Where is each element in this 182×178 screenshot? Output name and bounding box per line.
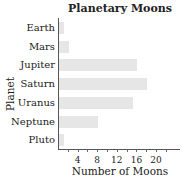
tick-mark — [166, 149, 167, 152]
bar — [59, 116, 98, 128]
tick-mark — [107, 149, 108, 152]
tick-label: 12 — [107, 155, 127, 165]
bar-row: Neptune — [0, 112, 182, 131]
bar-row: Pluto — [0, 130, 182, 149]
bar — [59, 22, 64, 34]
bar — [59, 97, 133, 109]
tick-label: 4 — [68, 155, 88, 165]
tick-mark — [127, 149, 128, 152]
bar — [59, 78, 147, 90]
tick-mark — [136, 149, 137, 152]
category-label: Uranus — [0, 93, 55, 112]
category-label: Saturn — [0, 74, 55, 93]
category-label: Earth — [0, 18, 55, 37]
tick-label: 16 — [126, 155, 146, 165]
bar-row: Earth — [0, 18, 182, 37]
x-axis-label: Number of Moons — [58, 165, 182, 177]
tick-mark — [97, 149, 98, 152]
bar-row: Uranus — [0, 93, 182, 112]
tick-mark — [87, 149, 88, 152]
bar-row: Saturn — [0, 74, 182, 93]
bar — [59, 134, 64, 146]
bar — [59, 41, 69, 53]
tick-label: 20 — [146, 155, 166, 165]
tick-label: 8 — [87, 155, 107, 165]
bar-row: Jupiter — [0, 55, 182, 74]
category-label: Mars — [0, 37, 55, 56]
category-label: Pluto — [0, 130, 55, 149]
tick-mark — [68, 149, 69, 152]
tick-mark — [146, 149, 147, 152]
bar — [59, 59, 137, 71]
tick-mark — [117, 149, 118, 152]
category-label: Neptune — [0, 112, 55, 131]
category-label: Jupiter — [0, 55, 55, 74]
tick-mark — [156, 149, 157, 152]
chart-title: Planetary Moons — [58, 2, 182, 15]
tick-mark — [78, 149, 79, 152]
bar-row: Mars — [0, 37, 182, 56]
